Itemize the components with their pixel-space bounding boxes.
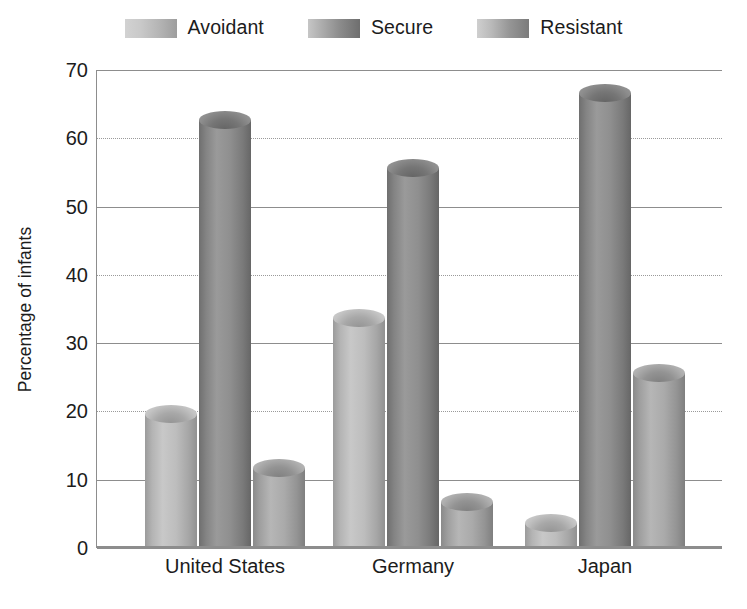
bars-layer — [97, 70, 722, 548]
bar-body — [579, 93, 631, 548]
x-tick-label: Japan — [578, 556, 633, 576]
y-tick-label-0: 0 — [77, 538, 88, 558]
bar-group — [145, 70, 305, 548]
bar — [145, 405, 197, 548]
bar — [387, 159, 439, 548]
y-axis-title: Percentage of infants — [12, 70, 40, 548]
bar-top-cap — [199, 111, 251, 129]
x-axis-tick-labels: United StatesGermanyJapan — [97, 556, 722, 590]
x-tick-label: Germany — [372, 556, 454, 576]
legend-item-avoidant: Avoidant — [125, 18, 264, 38]
bar-top-cap — [387, 159, 439, 177]
y-tick-label-50: 50 — [66, 197, 88, 217]
grouped-bar-chart: Avoidant Secure Resistant Percentage of … — [0, 0, 747, 609]
bar-top-cap — [525, 514, 577, 532]
y-tick-label-30: 30 — [66, 333, 88, 353]
bar-body — [145, 414, 197, 548]
legend-label-resistant: Resistant — [540, 18, 622, 38]
legend-label-secure: Secure — [371, 18, 433, 38]
bar-top-cap — [333, 309, 385, 327]
legend-swatch-avoidant-icon — [125, 19, 177, 38]
bar-body — [253, 468, 305, 548]
bar-body — [633, 373, 685, 548]
legend-label-avoidant: Avoidant — [188, 18, 264, 38]
bar-top-cap — [579, 84, 631, 102]
bar — [579, 84, 631, 548]
y-tick-label-60: 60 — [66, 128, 88, 148]
chart-legend: Avoidant Secure Resistant — [0, 12, 747, 44]
x-tick-label: United States — [165, 556, 285, 576]
y-tick-label-70: 70 — [66, 60, 88, 80]
bar — [633, 364, 685, 548]
bar-top-cap — [145, 405, 197, 423]
plot-area: 010203040506070 — [97, 70, 722, 548]
x-axis-line — [97, 546, 722, 548]
gridline-0 — [97, 548, 722, 549]
bar — [199, 111, 251, 548]
legend-swatch-secure-icon — [308, 19, 360, 38]
bar-group — [525, 70, 685, 548]
y-tick-label-10: 10 — [66, 470, 88, 490]
bar-group — [333, 70, 493, 548]
legend-swatch-resistant-icon — [477, 19, 529, 38]
legend-item-secure: Secure — [308, 18, 433, 38]
bar — [525, 514, 577, 548]
bar-body — [199, 120, 251, 548]
y-axis-title-text: Percentage of infants — [16, 226, 37, 391]
y-tick-label-40: 40 — [66, 265, 88, 285]
page-edge-artifact — [0, 595, 747, 609]
bar-body — [387, 168, 439, 548]
bar-top-cap — [633, 364, 685, 382]
bar — [441, 493, 493, 548]
y-tick-label-20: 20 — [66, 401, 88, 421]
bar — [253, 459, 305, 548]
bar — [333, 309, 385, 548]
legend-item-resistant: Resistant — [477, 18, 622, 38]
bar-body — [333, 318, 385, 548]
